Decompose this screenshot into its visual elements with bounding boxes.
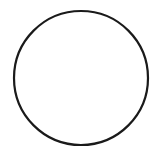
diagram-canvas (0, 0, 156, 153)
circle-outline (14, 11, 148, 145)
